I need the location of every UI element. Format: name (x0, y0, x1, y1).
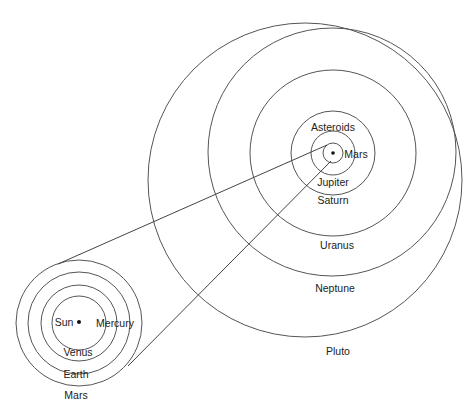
label-asteroids: Asteroids (311, 122, 355, 133)
label-pluto: Pluto (326, 346, 350, 357)
label-jupiter: Jupiter (317, 177, 349, 188)
sun-dot-outer (331, 151, 335, 155)
label-neptune: Neptune (315, 283, 355, 294)
label-mars-outer: Mars (344, 149, 367, 160)
label-sun: Sun (55, 317, 74, 328)
label-mars-inner: Mars (64, 390, 87, 401)
label-venus: Venus (63, 347, 92, 358)
sun-dot-inner (77, 320, 81, 324)
outer-system-orbits (148, 23, 462, 337)
label-uranus: Uranus (320, 240, 354, 251)
label-saturn: Saturn (318, 195, 349, 206)
label-mercury: Mercury (96, 318, 134, 329)
pluto-orbit (148, 23, 462, 337)
zoom-line-lower (128, 161, 331, 366)
label-earth: Earth (63, 369, 88, 380)
zoom-line-upper (58, 145, 327, 264)
